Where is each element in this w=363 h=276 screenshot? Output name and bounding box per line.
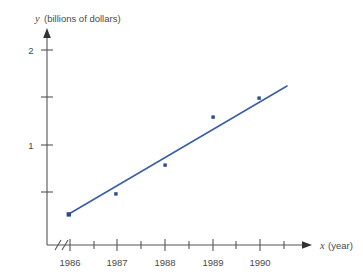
x-axis-title-variable: x [319,240,325,251]
data-point-1988 [163,163,166,166]
y-tick-label-1: 1 [28,140,33,151]
x-tick-label-1989: 1989 [202,257,223,268]
trend-line [68,86,287,215]
y-axis-arrowhead [43,28,51,38]
x-tick-label-1986: 1986 [59,257,80,268]
y-axis-title-unit: (billions of dollars) [44,13,121,24]
data-point-1986 [67,212,71,216]
data-point-1987 [114,192,117,195]
y-tick-label-2: 2 [28,45,33,56]
x-tick-label-1990: 1990 [249,257,270,268]
scatter-plot-with-trend-line: 2 1 y (billions of dollars) 1986 [0,0,363,276]
x-tick-label-1987: 1987 [106,257,127,268]
x-tick-label-1988: 1988 [154,257,175,268]
x-axis-group: 1986 1987 1988 1989 1990 x (year) [47,239,353,268]
chart-container: 2 1 y (billions of dollars) 1986 [0,0,363,276]
data-point-1989 [211,115,214,118]
y-axis-title-variable: y [34,13,40,24]
data-point-1990 [257,96,260,99]
x-axis-title-unit: (year) [328,240,353,251]
x-axis-arrowhead [302,241,312,249]
